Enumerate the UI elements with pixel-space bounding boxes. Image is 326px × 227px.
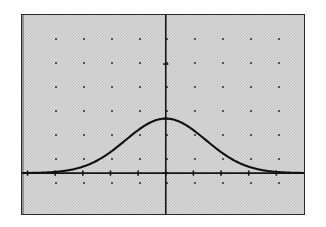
grid-dot <box>278 158 280 160</box>
grid-dot <box>250 134 252 136</box>
grid-dot <box>55 110 57 112</box>
grid-dot <box>83 158 85 160</box>
grid-dot <box>278 110 280 112</box>
grid-dot <box>111 110 113 112</box>
screenshot-root <box>0 0 326 227</box>
grid-dot <box>222 182 224 184</box>
grid-dot <box>111 38 113 40</box>
grid-dot <box>194 182 196 184</box>
grid-dot <box>55 182 57 184</box>
grid-dot <box>139 62 141 64</box>
grid-dot <box>194 62 196 64</box>
grid-dot <box>111 86 113 88</box>
grid-dot <box>278 182 280 184</box>
grid-dot <box>83 38 85 40</box>
grid-dot <box>278 38 280 40</box>
grid-dot <box>222 38 224 40</box>
grid-dot <box>139 110 141 112</box>
grid-dot <box>111 158 113 160</box>
grid-dot <box>83 86 85 88</box>
grid-dot <box>83 134 85 136</box>
grid-dot <box>55 158 57 160</box>
grid-dot <box>250 158 252 160</box>
grid-dot <box>278 134 280 136</box>
grid-dot <box>111 182 113 184</box>
grid-dot <box>250 110 252 112</box>
grid-dot <box>55 62 57 64</box>
grid-dot <box>194 38 196 40</box>
grid-dot <box>139 134 141 136</box>
grid-dot <box>250 38 252 40</box>
axes <box>22 15 304 214</box>
grid-dot <box>83 110 85 112</box>
graph-window[interactable] <box>21 14 305 215</box>
plot-area[interactable] <box>22 15 304 214</box>
grid-dot <box>139 158 141 160</box>
grid-dot <box>194 86 196 88</box>
grid-dots <box>55 38 280 184</box>
grid-dot <box>83 62 85 64</box>
grid-dot <box>55 38 57 40</box>
bell-curve-line <box>22 119 304 173</box>
grid-dot <box>139 182 141 184</box>
grid-dot <box>111 62 113 64</box>
grid-dot <box>222 62 224 64</box>
grid-dot <box>83 182 85 184</box>
grid-dot <box>250 62 252 64</box>
bell-curve-chart <box>22 15 304 214</box>
grid-dot <box>222 158 224 160</box>
grid-dot <box>278 62 280 64</box>
grid-dot <box>111 134 113 136</box>
grid-dot <box>250 182 252 184</box>
grid-dot <box>55 134 57 136</box>
grid-dot <box>250 86 252 88</box>
grid-dot <box>139 38 141 40</box>
grid-dot <box>139 86 141 88</box>
grid-dot <box>194 134 196 136</box>
grid-dot <box>222 134 224 136</box>
grid-dot <box>55 86 57 88</box>
grid-dot <box>194 110 196 112</box>
grid-dot <box>222 86 224 88</box>
grid-dot <box>278 86 280 88</box>
grid-dot <box>222 110 224 112</box>
grid-dot <box>194 158 196 160</box>
